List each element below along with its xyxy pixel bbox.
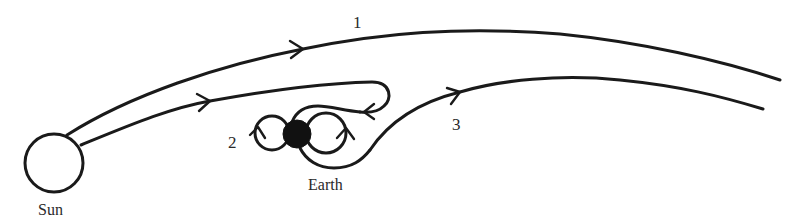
trajectory-1-label: 1 [353, 13, 362, 32]
trajectory-diagram: Sun 1 2 Earth [0, 0, 799, 224]
trajectory-3-label: 3 [452, 115, 461, 134]
sun-label: Sun [38, 201, 63, 218]
trajectory-3 [370, 78, 763, 150]
trajectory-1 [67, 31, 780, 135]
earth-body [283, 120, 311, 148]
arrow-icon [250, 127, 265, 138]
trajectory-2 [81, 82, 389, 168]
earth-label: Earth [308, 176, 343, 193]
sun-body [25, 134, 83, 192]
trajectory-2-label: 2 [228, 133, 237, 152]
